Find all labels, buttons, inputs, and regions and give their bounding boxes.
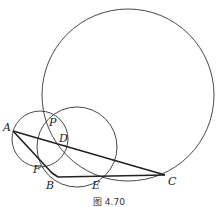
triangle-side-bc xyxy=(58,175,165,177)
label-a: A xyxy=(2,121,11,134)
label-e: E xyxy=(91,179,100,192)
figure-caption: 图 4.70 xyxy=(93,197,125,207)
label-d: D xyxy=(58,132,68,145)
large-circle xyxy=(42,9,214,181)
label-f: F xyxy=(32,163,41,176)
label-b: B xyxy=(45,179,54,192)
label-c: C xyxy=(168,175,177,188)
label-p: P xyxy=(48,116,57,129)
geometry-figure: A P D F B E C 图 4.70 xyxy=(0,0,218,207)
